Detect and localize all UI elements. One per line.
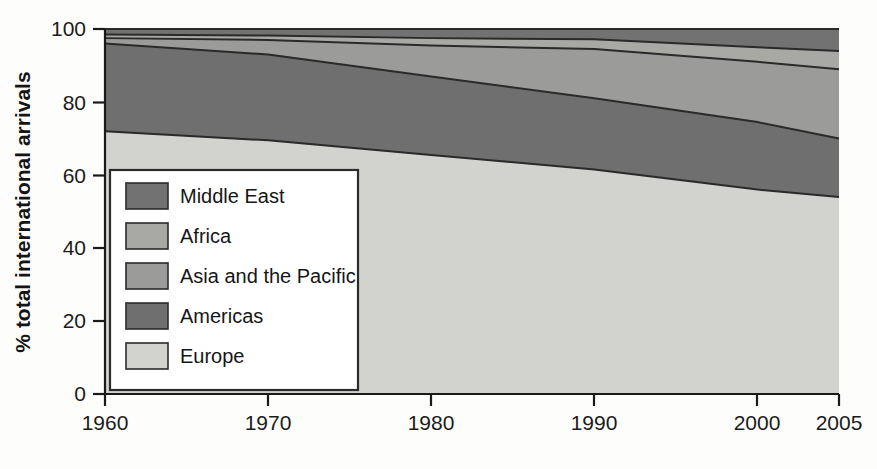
- stacked-area-chart: % total international arrivals 0 20 40 6…: [0, 0, 877, 469]
- y-tick-label-0: 0: [74, 382, 86, 405]
- legend-swatch-africa: [126, 223, 168, 249]
- chart-canvas: % total international arrivals 0 20 40 6…: [0, 0, 877, 469]
- legend-swatch-europe: [126, 343, 168, 369]
- legend-swatch-asia-and-the-pacific: [126, 263, 168, 289]
- x-tick-label-1980: 1980: [408, 411, 455, 434]
- legend: Middle EastAfricaAsia and the PacificAme…: [110, 170, 358, 390]
- x-tick-label-2000: 2000: [734, 411, 781, 434]
- y-axis-title: % total international arrivals: [11, 71, 34, 352]
- legend-label-asia-and-the-pacific: Asia and the Pacific: [180, 265, 356, 287]
- x-tick-label-1960: 1960: [82, 411, 129, 434]
- legend-swatch-americas: [126, 303, 168, 329]
- y-tick-label-40: 40: [63, 236, 86, 259]
- x-tick-label-1990: 1990: [571, 411, 618, 434]
- y-tick-label-80: 80: [63, 91, 86, 114]
- legend-label-africa: Africa: [180, 225, 232, 247]
- legend-label-europe: Europe: [180, 345, 245, 367]
- legend-label-middle-east: Middle East: [180, 185, 285, 207]
- x-tick-label-1970: 1970: [245, 411, 292, 434]
- legend-swatch-middle-east: [126, 183, 168, 209]
- x-tick-label-2005: 2005: [816, 411, 863, 434]
- y-tick-label-100: 100: [51, 17, 86, 40]
- y-tick-label-60: 60: [63, 164, 86, 187]
- y-tick-label-20: 20: [63, 309, 86, 332]
- legend-label-americas: Americas: [180, 305, 263, 327]
